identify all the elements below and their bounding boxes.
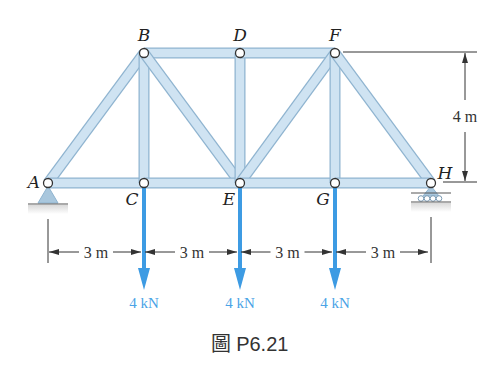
member-EF [240,53,335,183]
truss-diagram: 4 kN4 kN4 kN 4 m 3 m3 m3 m3 m ABCDEFGH 圖… [0,0,499,367]
span-dimension-label: 3 m [275,244,300,261]
joint-label-F: F [328,25,342,45]
member-BE [144,53,240,183]
joint-label-E: E [222,189,236,209]
joint-label-D: D [232,25,247,45]
joint-G [331,179,340,188]
joint-E [236,179,245,188]
joint-B [140,49,149,58]
member-AB [48,53,144,183]
joint-F [331,49,340,58]
joint-label-A: A [26,172,40,192]
joint-label-B: B [137,25,151,45]
joint-C [140,179,149,188]
span-dimension-label: 3 m [180,244,205,261]
member-FH [335,53,431,183]
joint-label-C: C [125,189,138,209]
span-dimension-3: 3 m [241,244,332,261]
roller-support-H [411,186,451,212]
span-dimension-label: 3 m [371,244,396,261]
load-label-E: 4 kN [225,295,255,311]
span-dimension-4: 3 m [336,244,428,261]
height-dimension-label: 4 m [453,108,478,125]
span-dimension-1: 3 m [49,244,141,261]
load-label-C: 4 kN [129,295,159,311]
span-dimension-2: 3 m [145,244,237,261]
joint-H [427,179,436,188]
joint-D [236,49,245,58]
span-dimension-label: 3 m [84,244,109,261]
joint-label-G: G [316,189,330,209]
load-label-G: 4 kN [320,295,350,311]
joint-A [44,179,53,188]
figure-caption: 圖 P6.21 [0,328,499,357]
joint-label-H: H [437,163,454,183]
truss-members [48,53,431,183]
